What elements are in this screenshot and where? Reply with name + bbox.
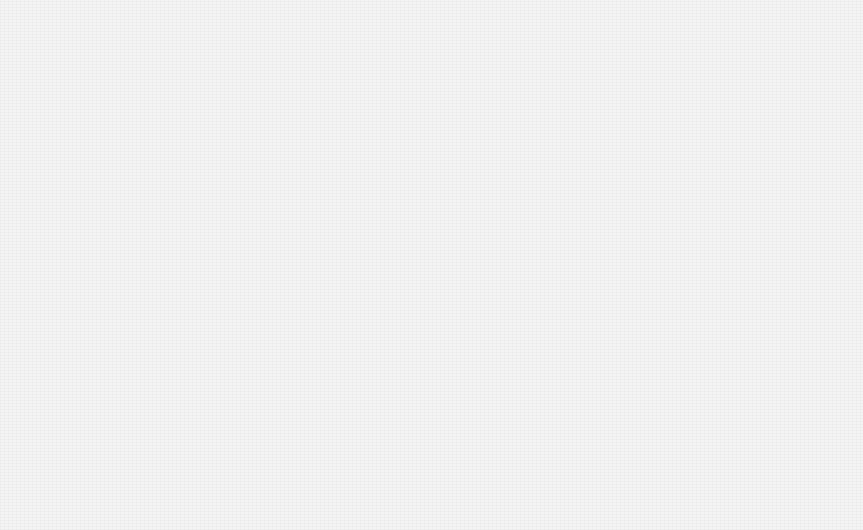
- plot-area: $1,200 $1,000 $800 $600 $400 $200 $0 Jan…: [0, 0, 863, 530]
- x-tick-label-apr: Apr: [688, 470, 803, 497]
- x-tick-feb-mar: [490, 437, 493, 452]
- x-tick-start: [150, 431, 153, 446]
- y-tick-1000: [141, 105, 160, 108]
- y-tick-0: [135, 437, 160, 440]
- bar-chart-figure: $1,200 $1,000 $800 $600 $400 $200 $0 Jan…: [0, 0, 863, 530]
- y-tick-400: [141, 305, 160, 308]
- x-tick-label-mar: Mar: [520, 470, 635, 497]
- x-tick-jan-feb: [320, 437, 323, 452]
- x-tick-mar-apr: [658, 437, 661, 452]
- y-tick-600: [141, 238, 160, 241]
- bar-feb: [358, 114, 456, 440]
- x-tick-label-jan: Jan: [180, 470, 295, 497]
- y-tick-200: [141, 371, 160, 374]
- bar-mar: [527, 265, 630, 440]
- x-tick-label-feb: Feb: [350, 470, 465, 497]
- y-tick-1200: [141, 39, 160, 42]
- y-tick-800: [141, 172, 160, 175]
- bar-apr: [696, 112, 793, 440]
- bar-jan: [185, 84, 288, 440]
- y-tick-label-1200: $1,200: [731, 27, 863, 54]
- x-tick-end: [825, 437, 828, 452]
